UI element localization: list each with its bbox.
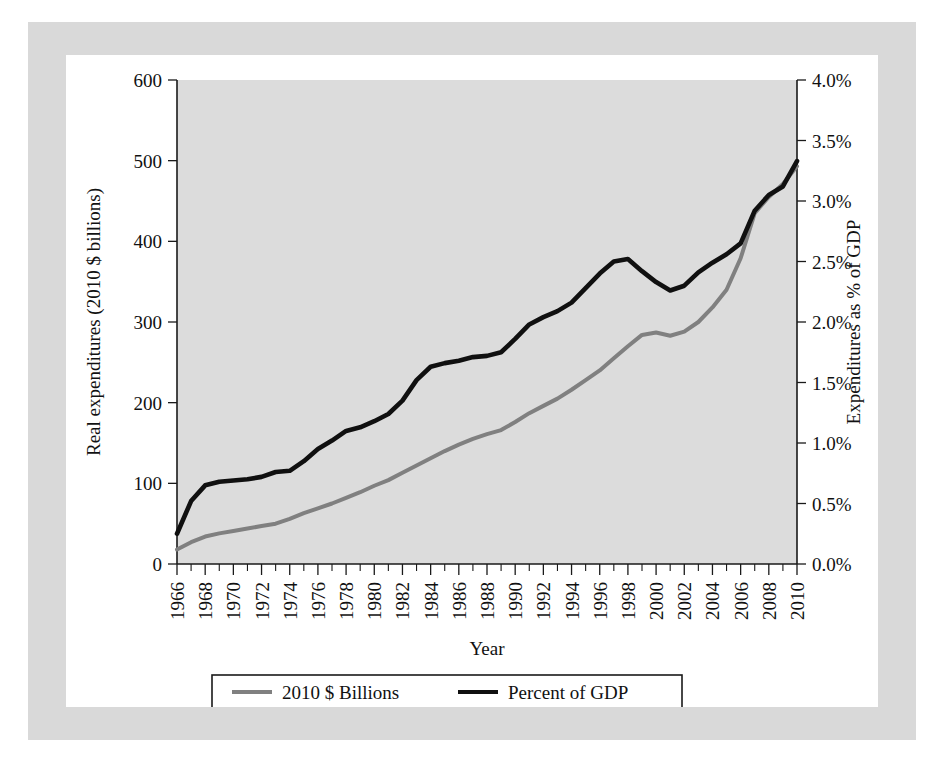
plot-area-background [177,80,797,564]
x-axis-tick-label: 1992 [533,582,554,620]
y-axis-tick-label: 500 [134,151,163,172]
legend-label-2010-dollars: 2010 $ Billions [282,682,399,703]
x-axis-tick-label: 1980 [364,582,385,620]
x-axis-tick-label: 2000 [646,582,667,620]
y-axis-tick-label: 300 [134,312,163,333]
x-axis-tick-label: 1990 [505,582,526,620]
x-axis-tick-labels: 1966196819701972197419761978198019821984… [167,582,808,621]
y2-axis-title: Expenditures as % of GDP [843,220,864,425]
y-axis-tick-label: 200 [134,393,163,414]
x-axis-tick-label: 1978 [336,582,357,620]
chart-page: 0100200300400500600 0.0%0.5%1.0%1.5%2.0%… [0,0,944,772]
x-axis-tick-label: 1982 [392,582,413,620]
y-axis-tick-label: 0 [153,554,163,575]
left-axis-ticks: 0100200300400500600 [134,70,178,575]
x-axis-tick-label: 1994 [562,582,583,621]
x-axis-tick-label: 1968 [195,582,216,620]
x-axis-tick-label: 1984 [421,582,442,621]
y2-axis-tick-label: 1.0% [812,433,852,454]
y2-axis-tick-label: 3.5% [812,131,852,152]
x-axis-tick-label: 1996 [590,582,611,620]
chart-figure: 0100200300400500600 0.0%0.5%1.0%1.5%2.0%… [66,55,878,707]
y2-axis-tick-label: 4.0% [812,70,852,91]
x-axis-tick-label: 1966 [167,582,188,620]
y2-axis-tick-label: 0.0% [812,554,852,575]
x-axis-tick-label: 1988 [477,582,498,620]
x-axis-tick-label: 1974 [280,582,301,621]
y-axis-tick-label: 400 [134,231,163,252]
x-axis-tick-label: 1976 [308,582,329,620]
x-axis-tick-label: 1970 [223,582,244,620]
x-axis-tick-label: 1998 [618,582,639,620]
dual-axis-line-chart: 0100200300400500600 0.0%0.5%1.0%1.5%2.0%… [66,55,878,707]
x-axis-tick-label: 2010 [787,582,808,620]
x-axis-tick-label: 1986 [449,582,470,620]
y-axis-tick-label: 600 [134,70,163,91]
x-axis-tick-label: 2004 [702,582,723,621]
y2-axis-tick-label: 0.5% [812,494,852,515]
y2-axis-tick-label: 3.0% [812,191,852,212]
legend-label-percent-of-gdp: Percent of GDP [508,682,628,703]
figure-card: 0100200300400500600 0.0%0.5%1.0%1.5%2.0%… [66,55,878,707]
chart-legend: 2010 $ Billions Percent of GDP [212,675,682,707]
x-axis-tick-label: 2008 [759,582,780,620]
x-axis-tick-label: 1972 [252,582,273,620]
y-axis-title: Real expenditures (2010 $ billions) [83,188,105,456]
x-axis-tick-label: 2006 [731,582,752,620]
y-axis-tick-label: 100 [134,473,163,494]
x-axis-title: Year [469,638,505,659]
x-axis-ticks [177,564,797,575]
x-axis-tick-label: 2002 [674,582,695,620]
